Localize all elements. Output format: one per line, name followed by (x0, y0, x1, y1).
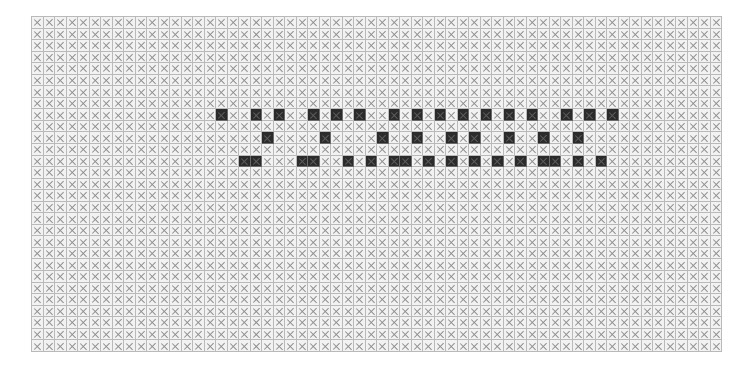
grid-cell[interactable] (687, 74, 699, 86)
grid-cell[interactable] (377, 224, 389, 236)
grid-cell[interactable] (480, 236, 492, 248)
grid-cell[interactable] (319, 97, 331, 109)
grid-cell[interactable] (423, 282, 435, 294)
grid-cell[interactable] (308, 213, 320, 225)
grid-cell[interactable] (687, 109, 699, 121)
grid-cell[interactable] (331, 259, 343, 271)
grid-cell[interactable] (319, 294, 331, 306)
grid-cell[interactable] (135, 109, 147, 121)
grid-cell[interactable] (147, 74, 159, 86)
grid-cell[interactable] (630, 155, 642, 167)
grid-cell[interactable] (699, 271, 711, 283)
grid-cell[interactable] (630, 271, 642, 283)
grid-cell[interactable] (250, 51, 262, 63)
grid-cell[interactable] (216, 120, 228, 132)
grid-cell[interactable] (469, 17, 481, 29)
grid-cell[interactable] (561, 63, 573, 75)
grid-cell[interactable] (492, 120, 504, 132)
grid-cell[interactable] (354, 213, 366, 225)
grid-cell[interactable] (423, 40, 435, 52)
grid-cell[interactable] (377, 259, 389, 271)
grid-cell[interactable] (538, 236, 550, 248)
grid-cell[interactable] (227, 247, 239, 259)
grid-cell[interactable] (457, 167, 469, 179)
grid-cell[interactable] (400, 328, 412, 340)
grid-cell[interactable] (400, 74, 412, 86)
grid-cell[interactable] (538, 28, 550, 40)
grid-cell[interactable] (66, 317, 78, 329)
grid-cell[interactable] (147, 167, 159, 179)
grid-cell[interactable] (676, 305, 688, 317)
grid-cell[interactable] (43, 224, 55, 236)
grid-cell[interactable] (630, 213, 642, 225)
grid-cell[interactable] (388, 51, 400, 63)
grid-cell[interactable] (687, 63, 699, 75)
grid-cell[interactable] (687, 167, 699, 179)
grid-cell[interactable] (32, 40, 44, 52)
grid-cell[interactable] (607, 40, 619, 52)
grid-cell[interactable] (411, 132, 423, 144)
grid-cell[interactable] (515, 144, 527, 156)
grid-cell[interactable] (285, 282, 297, 294)
grid-cell[interactable] (434, 120, 446, 132)
grid-cell[interactable] (710, 132, 722, 144)
grid-cell[interactable] (78, 282, 90, 294)
grid-cell[interactable] (480, 213, 492, 225)
grid-cell[interactable] (250, 236, 262, 248)
grid-cell[interactable] (250, 259, 262, 271)
grid-cell[interactable] (193, 317, 205, 329)
grid-cell[interactable] (457, 17, 469, 29)
grid-cell[interactable] (32, 213, 44, 225)
grid-cell[interactable] (492, 178, 504, 190)
grid-cell[interactable] (687, 144, 699, 156)
grid-cell[interactable] (32, 132, 44, 144)
grid-cell[interactable] (147, 282, 159, 294)
grid-cell[interactable] (572, 317, 584, 329)
grid-cell[interactable] (710, 167, 722, 179)
grid-cell[interactable] (55, 86, 67, 98)
grid-cell[interactable] (193, 213, 205, 225)
grid-cell[interactable] (170, 109, 182, 121)
grid-cell[interactable] (641, 282, 653, 294)
grid-cell[interactable] (710, 259, 722, 271)
grid-cell[interactable] (434, 144, 446, 156)
grid-cell[interactable] (239, 144, 251, 156)
grid-cell[interactable] (664, 120, 676, 132)
grid-cell[interactable] (285, 40, 297, 52)
grid-cell[interactable] (216, 109, 228, 121)
grid-cell[interactable] (480, 201, 492, 213)
grid-cell[interactable] (239, 259, 251, 271)
grid-cell[interactable] (32, 167, 44, 179)
grid-cell[interactable] (549, 40, 561, 52)
grid-cell[interactable] (308, 247, 320, 259)
grid-cell[interactable] (124, 259, 136, 271)
grid-cell[interactable] (687, 201, 699, 213)
grid-cell[interactable] (193, 17, 205, 29)
grid-cell[interactable] (388, 74, 400, 86)
grid-cell[interactable] (388, 271, 400, 283)
grid-cell[interactable] (147, 340, 159, 352)
grid-cell[interactable] (526, 86, 538, 98)
grid-cell[interactable] (549, 340, 561, 352)
grid-cell[interactable] (239, 63, 251, 75)
grid-cell[interactable] (158, 224, 170, 236)
grid-cell[interactable] (526, 294, 538, 306)
grid-cell[interactable] (89, 213, 101, 225)
grid-cell[interactable] (469, 178, 481, 190)
grid-cell[interactable] (227, 282, 239, 294)
grid-cell[interactable] (572, 132, 584, 144)
grid-cell[interactable] (446, 213, 458, 225)
grid-cell[interactable] (112, 340, 124, 352)
grid-cell[interactable] (526, 259, 538, 271)
grid-cell[interactable] (480, 190, 492, 202)
grid-cell[interactable] (342, 155, 354, 167)
grid-cell[interactable] (308, 305, 320, 317)
grid-cell[interactable] (239, 167, 251, 179)
grid-cell[interactable] (699, 282, 711, 294)
grid-cell[interactable] (676, 213, 688, 225)
grid-cell[interactable] (503, 190, 515, 202)
grid-cell[interactable] (124, 120, 136, 132)
grid-cell[interactable] (273, 120, 285, 132)
grid-cell[interactable] (515, 40, 527, 52)
grid-cell[interactable] (331, 97, 343, 109)
